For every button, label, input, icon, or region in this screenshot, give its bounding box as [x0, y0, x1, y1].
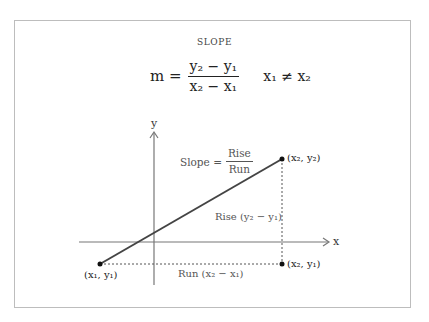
slope-label-prefix: Slope = — [180, 156, 222, 168]
point-x2-y1 — [280, 262, 285, 267]
rise-word: Rise — [226, 147, 253, 162]
slope-rise-over-run: Slope = Rise Run — [180, 147, 253, 176]
point-label-x2-y1: (x₂, y₁) — [287, 258, 320, 269]
point-x2-y2 — [280, 157, 285, 162]
point-x1-y1 — [98, 262, 103, 267]
point-label-x2-y2: (x₂, y₂) — [287, 152, 320, 163]
run-word: Run — [227, 162, 252, 176]
x-axis-label: x — [333, 235, 339, 248]
rise-run-fraction: Rise Run — [226, 147, 253, 176]
point-label-x1-y1: (x₁, y₁) — [84, 269, 117, 280]
y-axis-label: y — [151, 117, 157, 130]
run-label: Run (x₂ − x₁) — [178, 268, 243, 279]
rise-label: Rise (y₂ − y₁) — [215, 211, 282, 222]
